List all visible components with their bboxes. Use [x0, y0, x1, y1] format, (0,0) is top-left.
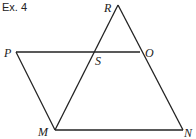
- label-N: N: [183, 126, 193, 139]
- label-O: O: [145, 46, 154, 60]
- segment-PM: [16, 52, 55, 130]
- segment-NR: [118, 5, 183, 130]
- label-R: R: [103, 1, 112, 15]
- segment-MR: [55, 5, 118, 130]
- label-S: S: [95, 54, 101, 68]
- label-P: P: [3, 46, 12, 60]
- label-M: M: [37, 125, 49, 139]
- geometry-diagram: R P O S M N: [0, 0, 196, 139]
